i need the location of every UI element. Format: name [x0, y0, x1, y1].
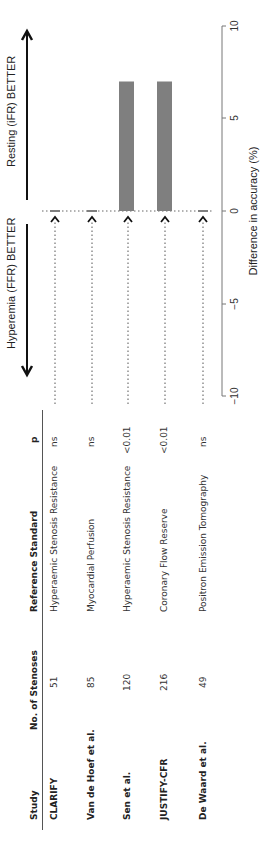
bar-justify [157, 82, 172, 212]
tick-label: 5 [229, 115, 240, 121]
forest-table-chart: Study No. of Stenoses Reference Standard… [0, 0, 268, 844]
bar-sen [119, 82, 134, 212]
bar-dewaard [198, 210, 208, 212]
left-arrow-icon [22, 224, 32, 375]
tick-label: −5 [229, 298, 240, 309]
tick-label: 10 [229, 20, 240, 31]
x-axis-title: Difference in accuracy (%) [247, 147, 259, 276]
bar-vandehoef [87, 210, 97, 212]
right-arrow-icon [22, 31, 32, 200]
chart-graphics [0, 0, 268, 844]
bar-clarify [50, 210, 60, 212]
tick-label: 0 [229, 208, 240, 214]
tick-label: −10 [229, 388, 240, 405]
